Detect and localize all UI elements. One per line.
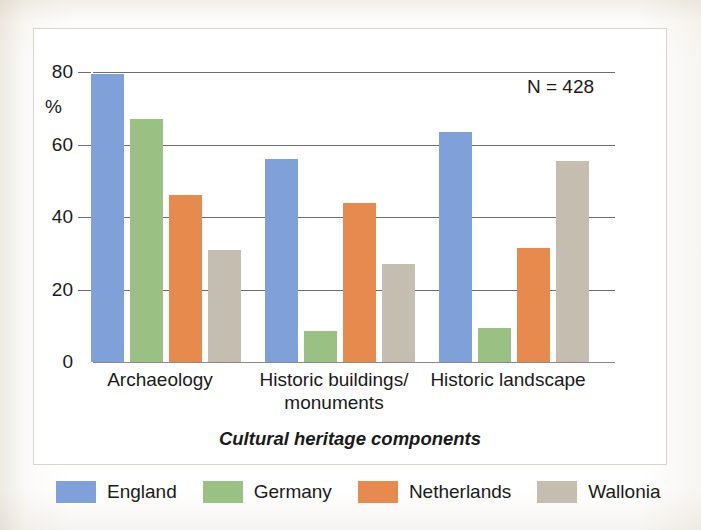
legend-label: England: [107, 481, 177, 503]
bar-group: [441, 72, 615, 362]
legend-label: Wallonia: [588, 481, 660, 503]
y-axis-tick-label-0: 0: [27, 352, 73, 371]
bar-germany[interactable]: [130, 119, 163, 362]
bar-england[interactable]: [439, 132, 472, 362]
bar-england[interactable]: [91, 74, 124, 362]
bar-wallonia[interactable]: [556, 161, 589, 362]
plot-area: [93, 72, 615, 362]
bar-germany[interactable]: [478, 328, 511, 362]
legend-item-wallonia[interactable]: Wallonia: [537, 481, 660, 503]
legend-label: Germany: [254, 481, 332, 503]
x-axis-category-labels: ArchaeologyHistoric buildings/ monuments…: [93, 368, 615, 424]
bar-netherlands[interactable]: [343, 203, 376, 363]
y-axis-unit-label: %: [45, 96, 62, 118]
legend-swatch-germany: [203, 481, 243, 503]
legend-swatch-wallonia: [537, 481, 577, 503]
sample-size-annotation: N = 428: [527, 76, 594, 98]
bar-group: [267, 72, 441, 362]
y-axis-tick-40: [78, 217, 91, 218]
bar-group: [93, 72, 267, 362]
bar-netherlands[interactable]: [517, 248, 550, 362]
legend-item-england[interactable]: England: [56, 481, 177, 503]
bar-chart-figure: 020406080 % N = 428 ArchaeologyHistoric …: [0, 0, 701, 530]
bar-england[interactable]: [265, 159, 298, 362]
y-axis-tick-label-60: 60: [27, 135, 73, 154]
legend-swatch-england: [56, 481, 96, 503]
y-axis-tick-label-20: 20: [27, 280, 73, 299]
y-axis-tick-60: [78, 145, 91, 146]
y-axis-tick-20: [78, 290, 91, 291]
legend-item-germany[interactable]: Germany: [203, 481, 332, 503]
y-axis-tick-label-80: 80: [27, 62, 73, 81]
legend-label: Netherlands: [409, 481, 511, 503]
gridline-0: [93, 362, 615, 363]
chart-legend: EnglandGermanyNetherlandsWallonia: [56, 477, 656, 507]
x-axis-category-label: Historic buildings/ monuments: [247, 368, 421, 414]
legend-item-netherlands[interactable]: Netherlands: [358, 481, 511, 503]
bar-netherlands[interactable]: [169, 195, 202, 362]
x-axis-category-label: Historic landscape: [421, 368, 595, 391]
x-axis-category-label: Archaeology: [73, 368, 247, 391]
y-axis-tick-label-40: 40: [27, 207, 73, 226]
legend-swatch-netherlands: [358, 481, 398, 503]
bar-wallonia[interactable]: [208, 250, 241, 362]
bar-wallonia[interactable]: [382, 264, 415, 362]
x-axis-title: Cultural heritage components: [33, 428, 667, 450]
y-axis-tick-80: [78, 72, 91, 73]
bar-germany[interactable]: [304, 331, 337, 362]
